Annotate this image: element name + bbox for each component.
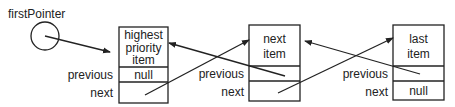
node-title-line: item <box>132 53 155 67</box>
next-field-label: next <box>365 85 388 99</box>
node-next-item: next item <box>249 25 300 101</box>
next-field-label: next <box>90 86 113 100</box>
node-highest-priority: highest priority item null <box>119 27 168 103</box>
previous-field-label: previous <box>343 67 388 81</box>
node-last-item: last item null <box>393 25 444 100</box>
node-next-value: null <box>409 84 428 98</box>
node-title-line: highest <box>124 28 163 42</box>
node-previous-value: null <box>134 68 153 82</box>
node-title-line: item <box>263 47 286 61</box>
linked-list-diagram: firstPointer highest priority item null … <box>0 0 455 107</box>
node-title-line: last <box>409 32 428 46</box>
node-title-line: next <box>263 32 286 46</box>
next-field-label: next <box>221 85 244 99</box>
first-pointer-label: firstPointer <box>8 7 65 21</box>
previous-field-label: previous <box>199 67 244 81</box>
node-title-line: item <box>407 47 430 61</box>
first-pointer-arrow <box>45 36 110 52</box>
previous-field-label: previous <box>68 68 113 82</box>
